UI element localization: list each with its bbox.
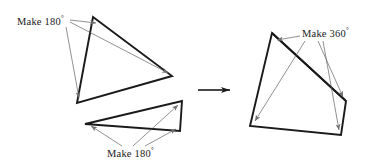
right-quadrilateral-group [250, 33, 346, 135]
degree-symbol-icon: ° [151, 146, 154, 154]
leader-line-to-bottom-left-vertex [255, 41, 305, 121]
geometry-figure: Make 180° Make 180° Make 360° [0, 0, 366, 166]
make-360-label: Make 360° [302, 27, 349, 39]
make-180-label-bottom-text: Make 180 [107, 148, 151, 159]
make-180-label-top-text: Make 180 [17, 16, 61, 27]
make-180-label-top: Make 180° [17, 15, 64, 27]
upper-left-triangle-group [77, 17, 172, 103]
quadrilateral-diagonal [272, 33, 346, 101]
lower-left-triangle [85, 101, 182, 131]
leader-line-to-bottom-vertex [145, 129, 176, 146]
leader-line-to-top-vertex [277, 36, 300, 40]
lower-left-triangle-group [85, 101, 182, 131]
make-180-label-bottom: Make 180° [107, 147, 154, 159]
leader-line-to-right-middle-vertex [318, 41, 343, 97]
make-360-label-text: Make 360 [302, 28, 346, 39]
upper-left-triangle [77, 17, 172, 103]
right-quadrilateral [250, 33, 346, 135]
upper-left-leader-lines [66, 20, 168, 98]
leader-line-to-bottom-vertex [66, 27, 79, 98]
degree-symbol-icon: ° [61, 14, 64, 22]
leader-line-to-left-vertex [91, 126, 122, 146]
degree-symbol-icon: ° [346, 26, 349, 34]
leader-line-to-bottom-right-vertex [323, 41, 339, 130]
